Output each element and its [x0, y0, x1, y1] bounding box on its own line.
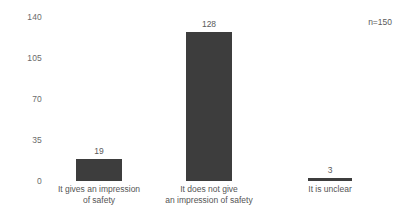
y-tick-label-0: 0 — [0, 177, 42, 186]
y-tick-label-140: 140 — [0, 13, 42, 22]
sample-size-annotation: n=150 — [368, 18, 392, 27]
x-tick-label-1: It does not give an impression of safety — [149, 184, 269, 206]
x-tick-label-2: It is unclear — [270, 184, 390, 195]
bar-value-label-1: 128 — [186, 20, 232, 29]
bar-chart: 140 105 70 35 0 19 128 3 It gives an imp… — [0, 0, 400, 220]
x-tick-label-0: It gives an impression of safety — [39, 184, 159, 206]
bar-value-label-2: 3 — [308, 166, 352, 175]
y-tick-label-70: 70 — [0, 95, 42, 104]
bar-slot-1: 128 — [186, 18, 232, 181]
bar-value-label-0: 19 — [76, 147, 122, 156]
bar-slot-2: 3 — [308, 18, 352, 181]
bar-it-gives-an-impression-of-safety[interactable] — [76, 159, 122, 181]
y-axis: 140 105 70 35 0 — [0, 0, 42, 220]
x-axis: It gives an impression of safety It does… — [48, 184, 392, 218]
y-tick-label-105: 105 — [0, 54, 42, 63]
plot-area: 19 128 3 — [48, 18, 392, 181]
y-tick-label-35: 35 — [0, 136, 42, 145]
bar-it-does-not-give-an-impression-of-safety[interactable] — [186, 32, 232, 181]
bar-it-is-unclear[interactable] — [308, 178, 352, 182]
bar-slot-0: 19 — [76, 18, 122, 181]
